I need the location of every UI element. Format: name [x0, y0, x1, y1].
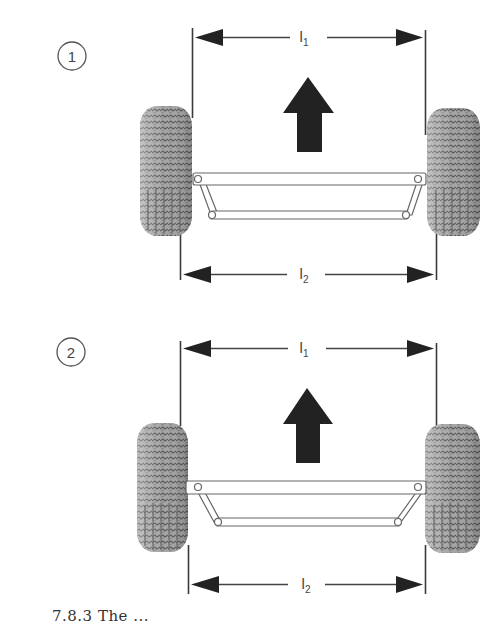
dimension-label-l1: l1 [300, 28, 309, 48]
forward-arrow-icon [283, 77, 334, 152]
panel-marker-label: 2 [67, 344, 75, 361]
dimension-label-l2: l2 [302, 575, 311, 595]
forward-arrow-icon [283, 388, 333, 463]
panel-marker-2: 2 [57, 338, 85, 366]
panel-1: 1 l1 [58, 28, 480, 285]
panel-marker-label: 1 [68, 48, 76, 65]
dimension-l2-panel-1: l2 [183, 265, 434, 285]
dimension-l1-panel-1: l1 [195, 28, 423, 48]
right-tire-panel-2 [425, 424, 480, 553]
panel-2: 2 l1 [57, 338, 480, 595]
steering-linkage-panel-1 [193, 173, 426, 219]
figure-caption: 7.8.3 The ... [52, 607, 149, 625]
panel-marker-1: 1 [58, 42, 86, 70]
left-tire-panel-2 [137, 423, 188, 552]
dimension-label-l1: l1 [300, 339, 309, 359]
steering-linkage-panel-2 [186, 481, 426, 526]
right-tire-panel-1 [427, 108, 480, 236]
left-tire-panel-1 [140, 106, 192, 236]
dimension-label-l2: l2 [300, 265, 309, 285]
dimension-l1-panel-2: l1 [183, 339, 434, 359]
dimension-l2-panel-2: l2 [191, 575, 423, 595]
